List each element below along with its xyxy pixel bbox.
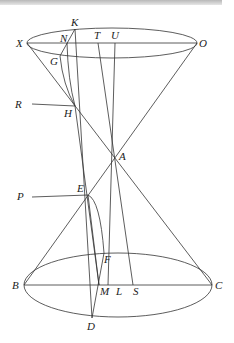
label-M: M — [99, 285, 110, 297]
pointer-R — [32, 104, 75, 106]
label-G: G — [50, 55, 58, 67]
label-T: T — [94, 29, 101, 41]
label-K: K — [70, 16, 79, 28]
label-L: L — [115, 285, 122, 297]
line-KD — [75, 29, 92, 318]
label-H: H — [63, 107, 73, 119]
label-A: A — [118, 150, 126, 162]
line-UL — [108, 43, 115, 285]
label-X: X — [15, 37, 24, 49]
label-C: C — [215, 279, 223, 291]
label-D: D — [86, 320, 95, 332]
pointer-P — [32, 195, 88, 197]
line-OB — [24, 43, 197, 285]
curve-EF — [88, 195, 104, 253]
line-TS — [98, 43, 133, 285]
label-B: B — [12, 279, 19, 291]
line-XC — [27, 43, 212, 285]
label-P: P — [16, 190, 24, 202]
label-S: S — [133, 285, 139, 297]
label-F: F — [103, 253, 111, 265]
label-U: U — [111, 29, 120, 41]
label-E: E — [76, 182, 84, 194]
label-R: R — [14, 98, 22, 110]
double-cone-diagram: K N X T U O G R H A P E F B M L S C D — [0, 0, 234, 343]
label-O: O — [199, 37, 207, 49]
label-N: N — [59, 32, 68, 44]
